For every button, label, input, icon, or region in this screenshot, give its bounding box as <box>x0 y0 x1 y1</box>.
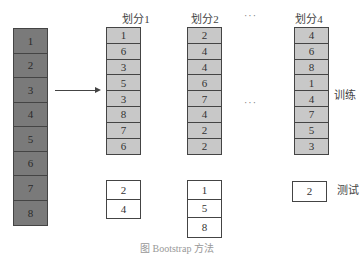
cell: 3 <box>295 139 328 155</box>
partition-2-test: 158 <box>187 180 222 238</box>
cell: 2 <box>293 182 326 201</box>
partition-1-test: 24 <box>106 180 141 219</box>
ellipsis-top: ··· <box>244 10 257 21</box>
cell: 1 <box>188 181 221 200</box>
cell: 6 <box>188 75 221 91</box>
cell: 5 <box>295 123 328 139</box>
cell: 7 <box>295 107 328 123</box>
cell: 2 <box>188 139 221 155</box>
cell: 4 <box>188 60 221 76</box>
cell: 4 <box>188 107 221 123</box>
cell: 6 <box>14 152 47 177</box>
cell: 5 <box>14 127 47 152</box>
cell: 4 <box>188 44 221 60</box>
source-column: 12345678 <box>13 28 48 226</box>
cell: 4 <box>295 28 328 44</box>
cell: 2 <box>188 123 221 139</box>
cell: 5 <box>188 200 221 219</box>
train-label: 训练 <box>334 86 356 102</box>
partition-4-title: 划分4 <box>279 10 339 26</box>
cell: 1 <box>295 75 328 91</box>
cell: 8 <box>107 107 140 123</box>
figure-caption: 图 Bootstrap 方法 <box>140 240 214 255</box>
cell: 3 <box>107 91 140 107</box>
partition-4-train: 46814753 <box>294 27 329 155</box>
cell: 6 <box>107 139 140 155</box>
cell: 1 <box>107 28 140 44</box>
partition-1-train: 16353876 <box>106 27 141 155</box>
ellipsis-middle: ··· <box>244 97 257 108</box>
cell: 7 <box>107 123 140 139</box>
arrow-icon <box>55 90 99 91</box>
cell: 5 <box>107 75 140 91</box>
partition-2-title: 划分2 <box>175 10 235 26</box>
cell: 8 <box>188 218 221 237</box>
cell: 4 <box>107 200 140 219</box>
cell: 3 <box>14 78 47 103</box>
partition-1-title: 划分1 <box>106 10 166 26</box>
cell: 6 <box>107 44 140 60</box>
cell: 2 <box>14 54 47 79</box>
cell: 4 <box>14 103 47 128</box>
cell: 6 <box>295 44 328 60</box>
cell: 8 <box>14 201 47 226</box>
cell: 3 <box>107 60 140 76</box>
partition-2-train: 24467422 <box>187 27 222 155</box>
test-label: 测试 <box>337 181 359 197</box>
cell: 7 <box>188 91 221 107</box>
cell: 8 <box>295 60 328 76</box>
cell: 2 <box>188 28 221 44</box>
cell: 2 <box>107 181 140 200</box>
cell: 1 <box>14 29 47 54</box>
partition-4-test: 2 <box>292 181 327 202</box>
cell: 4 <box>295 91 328 107</box>
cell: 7 <box>14 176 47 201</box>
